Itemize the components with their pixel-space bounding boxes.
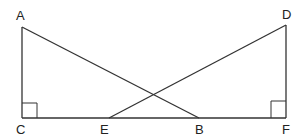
label-D: D xyxy=(282,7,291,22)
segment-AB xyxy=(22,27,199,118)
label-C: C xyxy=(16,122,25,137)
label-B: B xyxy=(195,122,204,137)
label-F: F xyxy=(282,122,290,137)
label-A: A xyxy=(16,8,25,23)
right-angle-mark-F xyxy=(271,101,286,118)
label-E: E xyxy=(100,122,109,137)
segment-DE xyxy=(109,25,286,118)
right-angle-mark-C xyxy=(22,103,37,118)
geometry-diagram: A C E B F D xyxy=(0,0,303,139)
